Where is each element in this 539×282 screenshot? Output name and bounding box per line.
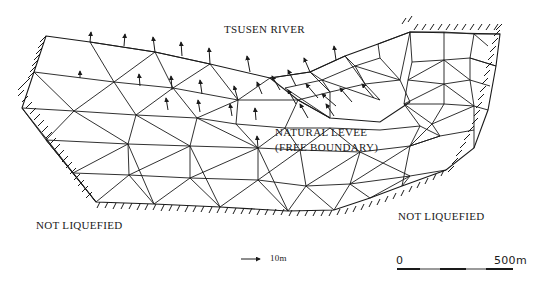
distance-scale-bar [397,268,513,270]
mesh-elements [22,32,500,211]
levee-label-line1: NATURAL LEVEE [275,126,367,138]
not-liquefied-right-label: NOT LIQUEFIED [398,210,485,222]
scale-start-label: 0 [396,254,403,267]
fe-mesh-diagram [0,0,539,282]
vector-scale-label: 10m [270,253,287,263]
levee-label-line2: (FREE BOUNDARY) [275,141,378,153]
scale-end-label: 500m [494,254,527,267]
river-label: TSUSEN RIVER [224,23,305,35]
fixed-boundary-hatching [18,16,502,216]
not-liquefied-left-label: NOT LIQUEFIED [36,219,123,231]
